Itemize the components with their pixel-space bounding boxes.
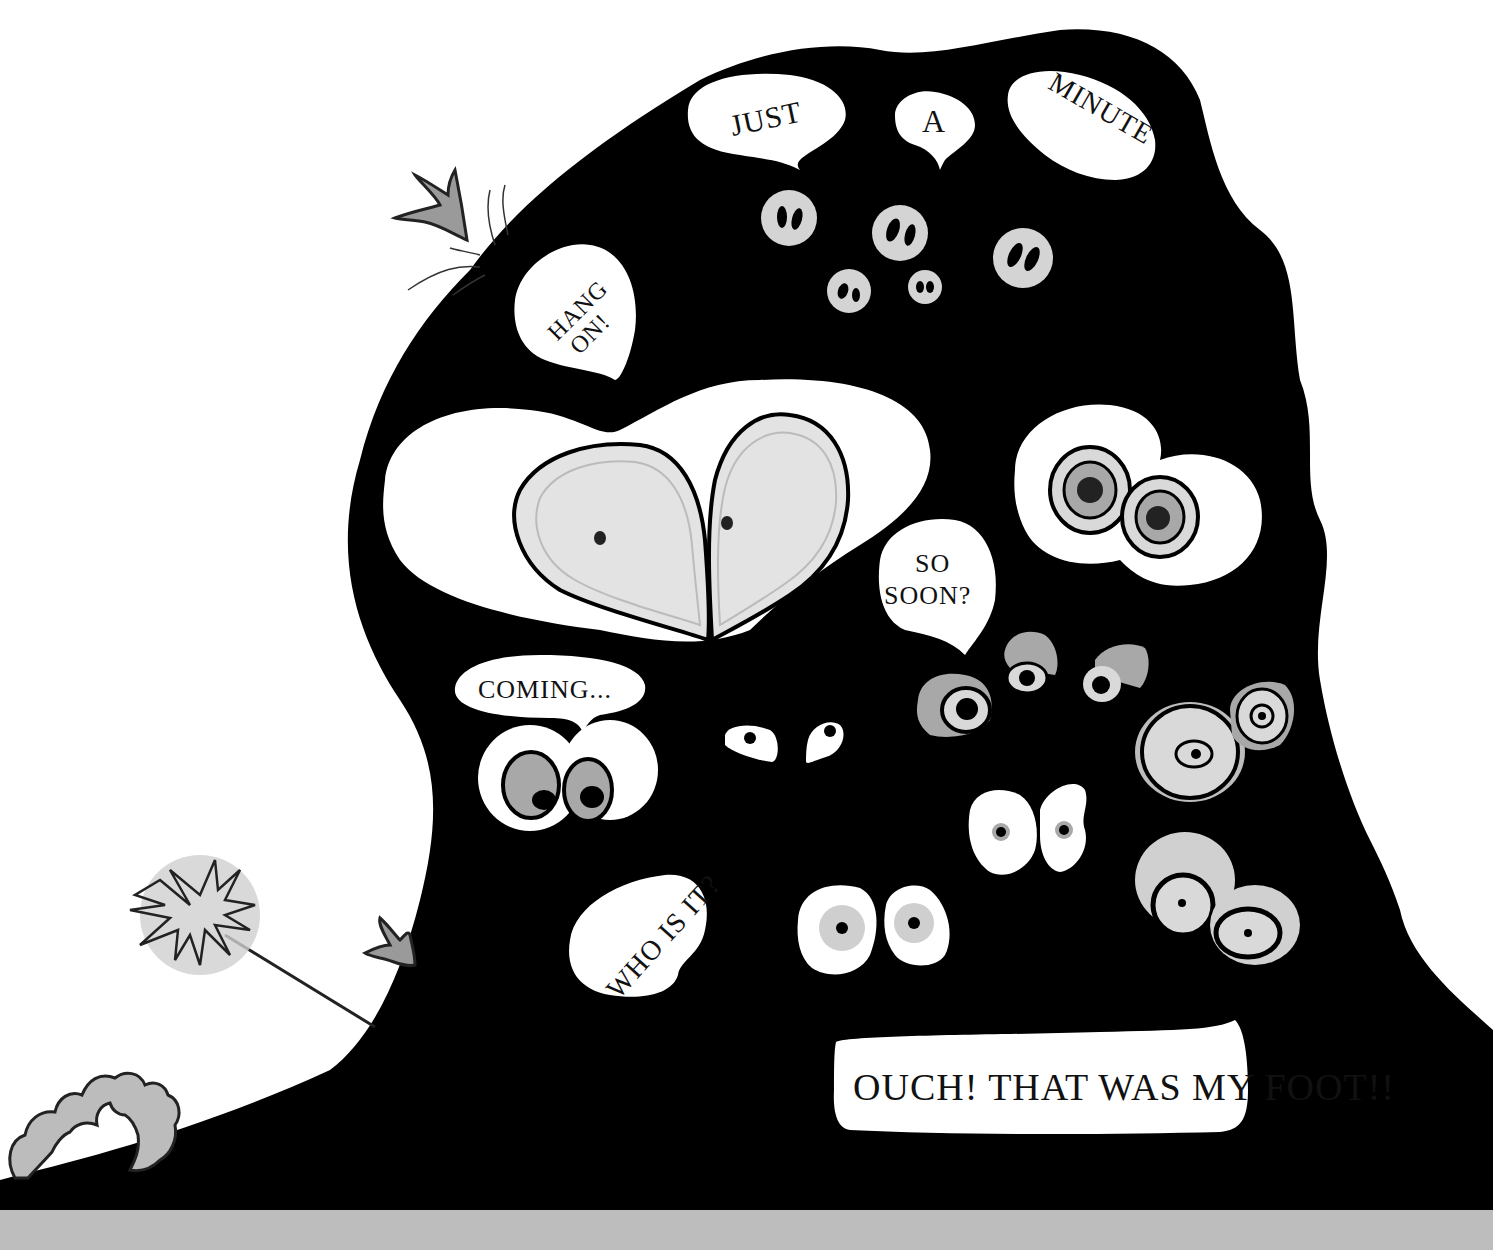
pupil (721, 516, 733, 530)
ground-strip (0, 1210, 1493, 1250)
bubble-text-a: A (922, 103, 946, 139)
bubble-text-so: SO (915, 549, 950, 578)
bubble-text-soon: SOON? (884, 581, 971, 610)
small-eye (827, 269, 871, 313)
small-eye (872, 205, 928, 261)
small-eye (993, 228, 1053, 288)
small-eye (761, 190, 817, 246)
small-eye (908, 270, 942, 304)
illustration-canvas: JUST A MINUTE HANG ON! (0, 0, 1493, 1250)
bubble-text-coming: COMING... (478, 675, 612, 704)
claw-bottom-icon (365, 918, 415, 966)
pupil (594, 531, 606, 545)
dandelion-icon (130, 855, 375, 1027)
bubble-text-ouch: OUCH! THAT WAS MY FOOT!! (853, 1066, 1395, 1108)
